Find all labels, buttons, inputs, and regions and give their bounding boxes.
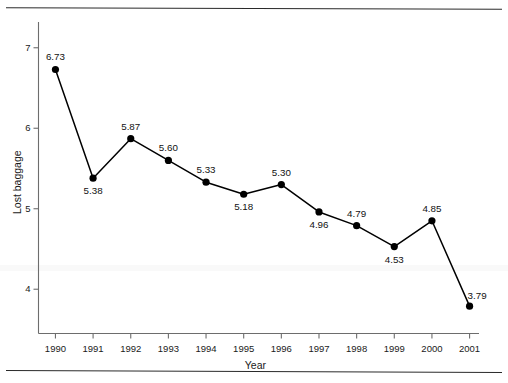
series-markers bbox=[52, 66, 473, 310]
y-axis-title: Lost baggage bbox=[12, 150, 23, 214]
series-line-lost-baggage bbox=[55, 69, 469, 306]
y-axis-tick-label: 7 bbox=[1, 43, 31, 53]
x-axis-tick-label: 2001 bbox=[448, 344, 492, 354]
data-point-marker bbox=[52, 66, 59, 73]
data-point-value-label: 5.33 bbox=[186, 165, 226, 175]
data-point-value-label: 5.87 bbox=[111, 122, 151, 132]
data-point-value-label: 5.30 bbox=[261, 168, 301, 178]
data-point-marker bbox=[202, 179, 209, 186]
data-point-marker bbox=[391, 243, 398, 250]
data-point-marker bbox=[89, 175, 96, 182]
data-point-value-label: 5.60 bbox=[148, 143, 188, 153]
data-point-value-label: 4.53 bbox=[374, 255, 414, 265]
data-point-marker bbox=[353, 222, 360, 229]
data-point-value-label: 4.96 bbox=[299, 220, 339, 230]
data-point-marker bbox=[278, 181, 285, 188]
data-point-value-label: 3.79 bbox=[468, 291, 508, 301]
data-point-value-label: 4.79 bbox=[337, 209, 377, 219]
data-point-marker bbox=[165, 157, 172, 164]
data-point-value-label: 6.73 bbox=[35, 52, 75, 62]
y-axis-tick-label: 4 bbox=[1, 284, 31, 294]
y-axis-tick-label: 6 bbox=[1, 123, 31, 133]
data-point-marker bbox=[315, 208, 322, 215]
chart-axes bbox=[34, 22, 480, 339]
data-point-marker bbox=[428, 217, 435, 224]
x-axis-title: Year bbox=[245, 360, 266, 371]
data-point-value-label: 4.85 bbox=[412, 204, 452, 214]
line-chart: 4567 19901991199219931994199519961997199… bbox=[0, 0, 508, 383]
data-point-marker bbox=[240, 191, 247, 198]
chart-page: 4567 19901991199219931994199519961997199… bbox=[0, 0, 508, 383]
data-point-marker bbox=[127, 135, 134, 142]
data-point-marker bbox=[466, 303, 473, 310]
data-point-value-label: 5.18 bbox=[224, 202, 264, 212]
data-point-value-label: 5.38 bbox=[73, 186, 113, 196]
